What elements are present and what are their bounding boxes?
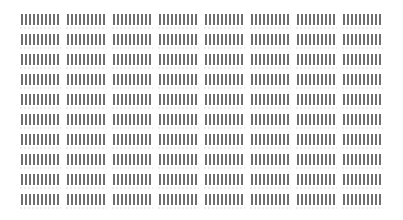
barcode-bar	[241, 94, 243, 105]
barcode-bar	[25, 114, 27, 125]
barcode-bar	[355, 14, 357, 25]
barcode-bar	[309, 14, 311, 25]
barcode-bar	[251, 194, 253, 205]
barcode-bar	[95, 194, 97, 205]
barcode-bar	[263, 74, 265, 85]
barcode-bar	[159, 174, 161, 185]
barcode-bar	[149, 14, 151, 25]
barcode-bar	[279, 14, 281, 25]
barcode-bar	[95, 134, 97, 145]
barcode-bar	[145, 54, 147, 65]
barcode-bar	[71, 94, 73, 105]
barcode-bar	[229, 14, 231, 25]
barcode-bar	[263, 54, 265, 65]
barcode-bar	[53, 114, 55, 125]
barcode-bar	[79, 194, 81, 205]
barcode-bar	[313, 94, 315, 105]
barcode-bar	[183, 134, 185, 145]
barcode-bar	[321, 74, 323, 85]
barcode-bar	[279, 114, 281, 125]
barcode-bar	[87, 94, 89, 105]
barcode-bar	[179, 194, 181, 205]
barcode-bar	[83, 94, 85, 105]
barcode-bar	[113, 34, 115, 45]
barcode-bar	[87, 134, 89, 145]
barcode-bar	[287, 74, 289, 85]
barcode-bar	[225, 54, 227, 65]
barcode-bar	[213, 94, 215, 105]
redacted-cell	[296, 194, 337, 205]
barcode-bar	[129, 134, 131, 145]
redacted-cell	[342, 14, 383, 25]
barcode-bar	[259, 134, 261, 145]
barcode-bar	[175, 74, 177, 85]
barcode-bar	[159, 54, 161, 65]
barcode-bar	[117, 34, 119, 45]
barcode-bar	[45, 134, 47, 145]
barcode-bar	[175, 114, 177, 125]
barcode-bar	[21, 154, 23, 165]
barcode-bar	[117, 154, 119, 165]
barcode-bar	[351, 74, 353, 85]
barcode-bar	[333, 14, 335, 25]
barcode-bar	[129, 34, 131, 45]
barcode-bar	[379, 94, 381, 105]
barcode-bar	[57, 14, 59, 25]
barcode-bar	[29, 114, 31, 125]
barcode-bar	[205, 14, 207, 25]
barcode-bar	[87, 54, 89, 65]
barcode-bar	[283, 174, 285, 185]
barcode-bar	[159, 34, 161, 45]
barcode-bar	[241, 114, 243, 125]
barcode-bar	[279, 54, 281, 65]
redacted-cell	[66, 154, 107, 165]
barcode-bar	[325, 54, 327, 65]
barcode-bar	[121, 114, 123, 125]
barcode-bar	[49, 114, 51, 125]
barcode-bar	[113, 114, 115, 125]
barcode-bar	[343, 34, 345, 45]
barcode-bar	[33, 74, 35, 85]
barcode-bar	[321, 94, 323, 105]
barcode-bar	[355, 94, 357, 105]
barcode-bar	[233, 174, 235, 185]
barcode-bar	[133, 174, 135, 185]
barcode-bar	[343, 14, 345, 25]
barcode-bar	[21, 134, 23, 145]
barcode-bar	[267, 134, 269, 145]
barcode-bar	[37, 34, 39, 45]
barcode-bar	[133, 114, 135, 125]
barcode-bar	[95, 114, 97, 125]
barcode-bar	[221, 174, 223, 185]
barcode-bar	[367, 114, 369, 125]
barcode-bar	[183, 154, 185, 165]
barcode-bar	[275, 54, 277, 65]
barcode-bar	[317, 94, 319, 105]
barcode-bar	[141, 134, 143, 145]
redacted-cell	[204, 134, 245, 145]
barcode-bar	[375, 114, 377, 125]
barcode-bar	[325, 134, 327, 145]
barcode-bar	[57, 194, 59, 205]
barcode-bar	[347, 74, 349, 85]
barcode-bar	[279, 174, 281, 185]
barcode-bar	[225, 174, 227, 185]
barcode-bar	[371, 134, 373, 145]
barcode-bar	[67, 74, 69, 85]
barcode-bar	[347, 94, 349, 105]
barcode-bar	[191, 94, 193, 105]
barcode-bar	[329, 34, 331, 45]
barcode-bar	[25, 194, 27, 205]
barcode-bar	[225, 114, 227, 125]
barcode-bar	[329, 154, 331, 165]
barcode-bar	[171, 34, 173, 45]
barcode-bar	[347, 114, 349, 125]
barcode-bar	[187, 114, 189, 125]
redacted-cell	[158, 74, 199, 85]
redacted-cell	[112, 74, 153, 85]
barcode-bar	[129, 94, 131, 105]
barcode-bar	[141, 34, 143, 45]
barcode-bar	[71, 154, 73, 165]
redacted-cell	[112, 94, 153, 105]
barcode-bar	[95, 154, 97, 165]
